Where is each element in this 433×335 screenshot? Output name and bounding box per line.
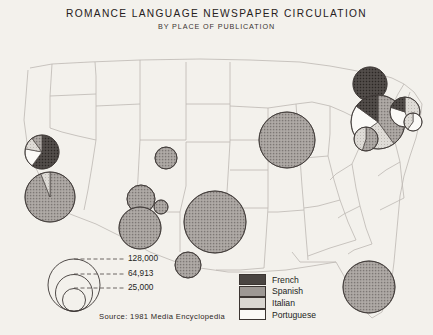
symbol-rhode-island <box>404 113 422 131</box>
legend-item-italian: Italian <box>239 297 316 309</box>
category-legend: French Spanish Italian Portuguese <box>239 274 316 320</box>
legend-item-portuguese: Portuguese <box>239 309 316 321</box>
size-legend-label-medium: 64,913 <box>128 268 153 278</box>
legend-label-portuguese: Portuguese <box>272 310 316 320</box>
size-legend-circles <box>48 259 126 312</box>
source-note: Source: 1981 Media Encyclopedia <box>99 312 225 321</box>
symbol-los-angeles <box>25 172 75 222</box>
legend-swatch-french-icon <box>239 274 266 285</box>
symbol-san-francisco-bay-area <box>25 135 59 169</box>
symbol-south-texas <box>175 252 201 278</box>
legend-swatch-portuguese-icon <box>239 309 266 320</box>
us-map-canvas <box>0 0 433 335</box>
legend-label-spanish: Spanish <box>272 286 303 296</box>
symbol-colorado <box>155 147 177 169</box>
map-figure: ROMANCE LANGUAGE NEWSPAPER CIRCULATION B… <box>0 0 433 335</box>
symbol-chicago <box>259 112 315 168</box>
legend-swatch-italian-icon <box>239 297 266 308</box>
legend-item-french: French <box>239 274 316 286</box>
symbol-southwest-small <box>154 200 168 214</box>
symbol-texas-gulf <box>184 191 246 253</box>
symbol-new-jersey <box>354 127 378 151</box>
symbol-miami-south-florida <box>343 261 395 313</box>
size-legend-label-large: 128,000 <box>128 253 158 263</box>
legend-item-spanish: Spanish <box>239 286 316 298</box>
size-legend-label-small: 25,000 <box>128 282 153 292</box>
legend-label-italian: Italian <box>272 298 295 308</box>
symbol-west-texas <box>119 207 161 249</box>
legend-label-french: French <box>272 275 299 285</box>
legend-swatch-spanish-icon <box>239 286 266 297</box>
